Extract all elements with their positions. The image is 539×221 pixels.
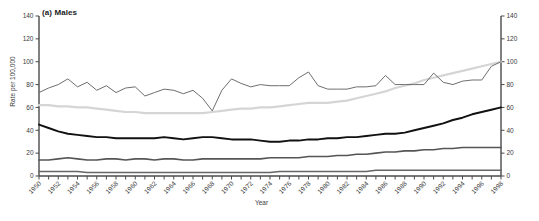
y-tick-label-left: 120	[23, 35, 34, 42]
x-tick-label: 1992	[431, 179, 446, 194]
x-tick-label: 1972	[239, 179, 254, 194]
y-tick-label-right: 20	[507, 149, 515, 156]
y-tick-label-right: 0	[507, 172, 511, 179]
line-chart-plot: 0020204040606080801001001201201401401950…	[0, 0, 539, 221]
x-tick-label: 1976	[277, 179, 292, 194]
x-tick-label: 1994	[451, 179, 466, 194]
y-tick-label-right: 120	[507, 35, 518, 42]
x-tick-label: 1974	[258, 179, 273, 194]
x-tick-label: 1978	[297, 179, 312, 194]
series-line-series-4-gray-mid	[39, 147, 501, 160]
x-tick-label: 1966	[181, 179, 196, 194]
x-tick-label: 1996	[470, 179, 485, 194]
y-tick-label-left: 100	[23, 58, 34, 65]
x-tick-label: 1970	[220, 179, 235, 194]
x-tick-label: 1998	[489, 179, 504, 194]
axes-group	[36, 16, 505, 180]
series-line-series-1-darkgray-volatile	[39, 62, 501, 111]
chart-container: (a) Males Rate per 100,000 Year 00202040…	[0, 0, 539, 221]
series-group	[39, 62, 501, 173]
y-tick-label-left: 140	[23, 12, 34, 19]
x-tick-label: 1962	[143, 179, 158, 194]
y-tick-label-right: 100	[507, 58, 518, 65]
x-tick-label: 1954	[66, 179, 81, 194]
y-tick-label-right: 80	[507, 81, 515, 88]
x-tick-label: 1960	[123, 179, 138, 194]
x-tick-label: 1956	[85, 179, 100, 194]
y-tick-label-left: 80	[26, 81, 34, 88]
y-tick-label-right: 40	[507, 127, 515, 134]
y-tick-label-left: 20	[26, 149, 34, 156]
y-tick-label-right: 60	[507, 104, 515, 111]
x-tick-label: 1980	[316, 179, 331, 194]
y-tick-label-left: 60	[26, 104, 34, 111]
x-tick-label: 1958	[104, 179, 119, 194]
x-tick-label: 1990	[412, 179, 427, 194]
y-tick-label-right: 140	[507, 12, 518, 19]
x-tick-label: 1964	[162, 179, 177, 194]
x-tick-label: 1982	[335, 179, 350, 194]
x-tick-label: 1968	[200, 179, 215, 194]
x-tick-label: 1988	[393, 179, 408, 194]
x-tick-label: 1984	[354, 179, 369, 194]
y-tick-label-left: 40	[26, 127, 34, 134]
x-tick-label: 1950	[27, 179, 42, 194]
series-line-series-5-gray-lowest	[39, 170, 501, 172]
series-line-series-3-black-thick	[39, 107, 501, 141]
x-tick-label: 1986	[374, 179, 389, 194]
x-tick-label: 1952	[46, 179, 61, 194]
tick-labels-group: 0020204040606080801001001201201401401950…	[23, 12, 518, 195]
y-tick-label-left: 0	[30, 172, 34, 179]
